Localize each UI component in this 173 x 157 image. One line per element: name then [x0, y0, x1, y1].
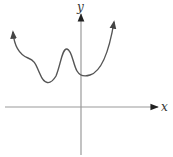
graph-figure: x y: [0, 0, 173, 157]
function-curve: [13, 22, 114, 83]
x-axis-label: x: [161, 100, 168, 114]
y-axis-label: y: [76, 0, 84, 14]
